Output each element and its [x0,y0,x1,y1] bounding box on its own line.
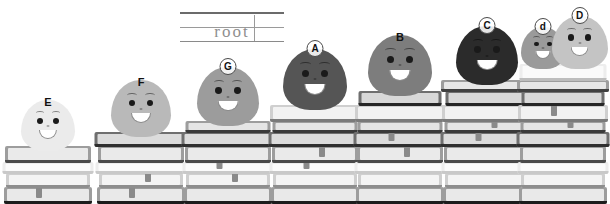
book [184,187,272,204]
book [4,187,92,204]
book-pages [525,93,602,103]
book [517,80,609,92]
book-pages [448,175,526,185]
book [269,132,362,147]
blob-character-B [368,35,432,96]
book [519,187,607,204]
book [97,187,185,204]
blob-nose [314,78,317,80]
book [518,162,609,174]
book-base [521,130,606,133]
character-label-C: C [479,17,496,34]
book-pages [187,189,269,201]
book [186,173,270,188]
book-pages [520,134,607,144]
book-base [99,185,183,188]
card-vertical-tick [254,15,255,41]
book-stack-F [95,133,187,204]
book-base [355,119,445,122]
book-base [186,130,271,133]
blob-eye [493,46,500,53]
illustration-stage: EFGABCdDroot [0,0,610,204]
book-base [272,160,358,163]
book [358,121,443,133]
book-pages [361,123,440,130]
book-base [359,103,442,106]
book-base [519,201,607,204]
blob-nose [47,125,50,127]
book-base [183,171,274,174]
book-pages [521,107,605,119]
character-column-E: E [2,0,94,204]
book-base [184,201,272,204]
book-base [182,144,275,147]
bookmark [145,173,151,182]
book-pages [446,189,528,201]
book-base [358,130,443,133]
character-label-G: G [220,58,237,75]
bookmark [303,162,309,169]
blob-eyebrow [404,48,414,53]
blob-nose [399,64,402,66]
book-base [520,78,607,81]
bookmark [36,187,42,198]
book-pages [359,189,441,201]
book-base [96,171,187,174]
blob-nose [541,47,544,49]
book-pages [273,164,358,171]
blob-character-G [197,67,259,126]
book-base [522,103,605,106]
character-label-B: B [396,32,404,43]
book-base [186,185,270,188]
book [355,105,445,122]
book-base [517,144,610,147]
blob-eye [302,70,309,77]
book [272,146,358,163]
book-base [520,160,606,163]
book [271,187,359,204]
book [185,146,271,163]
book [521,173,605,188]
book-base [270,171,361,174]
bookmark [404,146,410,157]
book-pages [360,148,440,160]
book-base [6,185,90,188]
blob-eye [568,34,574,40]
book-base [98,160,184,163]
bookmark [567,121,573,128]
book [521,121,606,133]
book-stack-D [517,65,609,204]
book [517,132,610,147]
book-stack-E [2,147,94,204]
blob-eyebrow [385,48,395,53]
book-base [95,144,188,147]
blob-eyebrow [567,28,576,33]
book-base [273,130,358,133]
book-base [5,160,91,163]
book [357,146,443,163]
book-pages [447,148,527,160]
bookmark [216,162,222,169]
book-pages [448,123,527,130]
bookmark [319,146,325,157]
book-base [357,160,443,163]
book [273,121,358,133]
book-pages [276,175,354,185]
book-pages [357,134,444,144]
book-pages [188,148,268,160]
bookmark [232,173,238,182]
book-pages [99,164,184,171]
book-base [4,201,92,204]
book [354,132,447,147]
book [356,187,444,204]
blob-nose [140,108,143,110]
character-label-d: d [534,18,551,35]
blob-eye [37,118,43,124]
book-base [518,171,609,174]
book-pages [522,189,604,201]
book [358,173,442,188]
book-pages [100,189,182,201]
book [6,173,90,188]
bookmark [388,132,394,141]
blob-nose [227,96,230,98]
